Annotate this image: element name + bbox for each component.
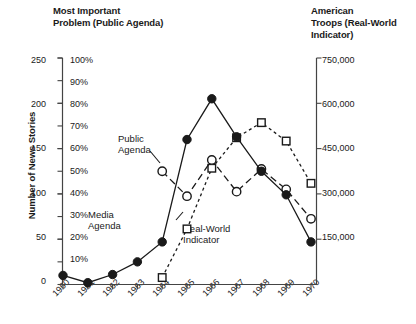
data-point-marker — [257, 167, 265, 175]
plot-area — [0, 0, 416, 324]
chart-figure: Most Important Problem (Public Agenda) A… — [0, 0, 416, 324]
data-point-marker — [282, 137, 290, 145]
data-point-marker — [258, 119, 266, 127]
data-point-marker — [158, 274, 166, 282]
series-real-world-indicator — [158, 119, 314, 281]
data-point-marker — [208, 156, 216, 164]
data-point-marker — [108, 270, 116, 278]
series-media-agenda — [59, 95, 315, 287]
data-point-marker — [282, 191, 290, 199]
data-point-marker — [158, 238, 166, 246]
leader-public-agenda — [150, 151, 160, 163]
data-point-marker — [133, 258, 141, 266]
data-point-marker — [59, 271, 67, 279]
data-point-marker — [208, 95, 216, 103]
data-point-marker — [84, 278, 92, 286]
axes-layer — [58, 58, 322, 290]
annotation-leader-lines — [150, 151, 183, 220]
data-point-marker — [183, 225, 191, 233]
y-axis-left-ticks — [58, 58, 63, 285]
y-axis-right-ticks — [317, 58, 322, 239]
leader-real-world-indicator — [176, 212, 183, 220]
x-axis-ticks — [63, 285, 311, 290]
data-point-marker — [158, 167, 166, 175]
data-point-marker — [183, 135, 191, 143]
data-point-marker — [183, 192, 191, 200]
data-point-marker — [307, 215, 315, 223]
data-point-marker — [208, 164, 216, 172]
series-layer — [59, 95, 315, 287]
data-point-marker — [232, 133, 240, 141]
data-point-marker — [232, 187, 240, 195]
series-line — [63, 99, 311, 283]
data-point-marker — [307, 238, 315, 246]
data-point-marker — [307, 180, 315, 188]
